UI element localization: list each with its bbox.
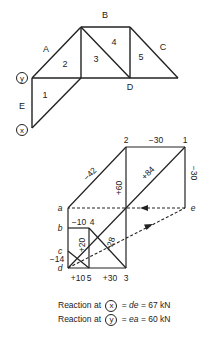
equals-sign: = bbox=[122, 314, 129, 324]
force-b-4: −10 bbox=[72, 217, 87, 227]
reaction-label: Reaction at bbox=[58, 300, 101, 310]
region-label-C: C bbox=[160, 42, 167, 52]
arrow-icon bbox=[140, 205, 153, 230]
truss-diagram: B A C D E 1 2 3 4 5 y x bbox=[0, 0, 209, 338]
point-label-b: b bbox=[58, 223, 63, 233]
force-a-2: −42 bbox=[81, 165, 98, 183]
point-label-5: 5 bbox=[87, 273, 92, 283]
region-label-4: 4 bbox=[111, 37, 116, 47]
force-3-4: −28 bbox=[103, 235, 117, 252]
vector-ea: ea bbox=[129, 314, 138, 324]
vector-de: de bbox=[129, 300, 138, 310]
force-1-e: −30 bbox=[189, 166, 199, 181]
force-c-d: −14 bbox=[50, 254, 65, 264]
equals-sign: = bbox=[122, 300, 129, 310]
reaction-y-value: = 60 kN bbox=[139, 314, 171, 324]
svg-text:x: x bbox=[20, 126, 24, 135]
force-d-5: +10 bbox=[71, 273, 86, 283]
point-label-3: 3 bbox=[124, 273, 129, 283]
reaction-label: Reaction at bbox=[58, 314, 101, 324]
truss-frame bbox=[32, 27, 178, 128]
region-label-E: E bbox=[19, 101, 25, 111]
region-label-5: 5 bbox=[138, 52, 143, 62]
point-label-4: 4 bbox=[90, 217, 95, 227]
point-label-1: 1 bbox=[183, 135, 188, 145]
region-label-1: 1 bbox=[42, 90, 47, 100]
support-y-icon: y bbox=[17, 73, 28, 84]
support-x-icon: x bbox=[105, 300, 117, 312]
reaction-y-line: Reaction at y = ea = 60 kN bbox=[58, 314, 170, 326]
force-2-1: −30 bbox=[149, 135, 164, 145]
point-label-2: 2 bbox=[124, 135, 129, 145]
force-4-5: +20 bbox=[77, 238, 87, 253]
point-label-a: a bbox=[58, 203, 63, 213]
support-x-icon: x bbox=[17, 125, 28, 136]
region-label-A: A bbox=[43, 44, 49, 54]
region-label-D: D bbox=[127, 82, 134, 92]
support-y-icon: y bbox=[105, 314, 117, 326]
region-label-3: 3 bbox=[93, 54, 98, 64]
region-label-2: 2 bbox=[62, 59, 67, 69]
force-5-3: +30 bbox=[103, 273, 118, 283]
point-label-d: d bbox=[58, 263, 63, 273]
force-2-3: +60 bbox=[114, 181, 124, 196]
reaction-x-line: Reaction at x = de = 67 kN bbox=[58, 300, 170, 312]
reaction-x-value: = 67 kN bbox=[139, 300, 171, 310]
region-label-B: B bbox=[102, 10, 108, 20]
svg-text:y: y bbox=[20, 74, 24, 83]
point-label-e: e bbox=[191, 203, 196, 213]
